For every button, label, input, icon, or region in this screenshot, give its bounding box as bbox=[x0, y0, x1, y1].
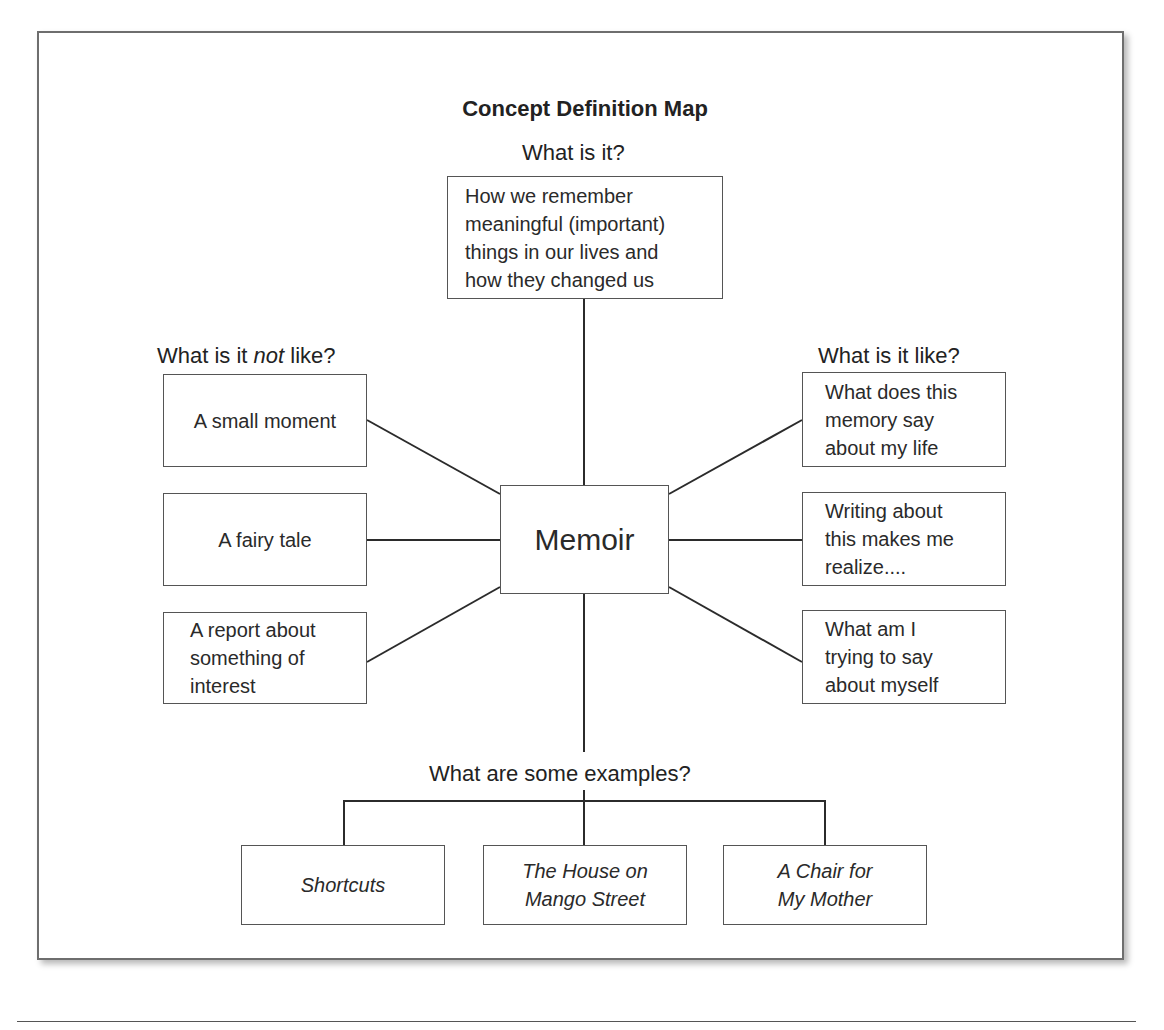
not-like-item-text: A report about something of interest bbox=[164, 616, 316, 700]
connector-left-3 bbox=[367, 587, 500, 662]
not-like-item: A small moment bbox=[163, 374, 367, 467]
connector-right-3 bbox=[669, 587, 802, 662]
is-like-item: What does this memory say about my life bbox=[802, 372, 1006, 467]
example-item-text: Shortcuts bbox=[301, 871, 385, 899]
definition-text: How we remember meaningful (important) t… bbox=[448, 182, 665, 294]
examples-heading: What are some examples? bbox=[429, 761, 691, 787]
not-like-heading-emphasis: not bbox=[254, 343, 285, 368]
not-like-item: A fairy tale bbox=[163, 493, 367, 586]
connector-right-1 bbox=[669, 420, 802, 494]
example-item: Shortcuts bbox=[241, 845, 445, 925]
example-item: The House on Mango Street bbox=[483, 845, 687, 925]
what-is-it-heading: What is it? bbox=[522, 140, 625, 166]
concept-box: Memoir bbox=[500, 485, 669, 594]
is-like-item-text: Writing about this makes me realize.... bbox=[803, 497, 954, 581]
not-like-heading: What is it not like? bbox=[157, 343, 336, 369]
not-like-item-text: A fairy tale bbox=[218, 526, 311, 554]
example-item-text: A Chair for My Mother bbox=[778, 857, 873, 913]
not-like-item-text: A small moment bbox=[194, 407, 336, 435]
is-like-item: Writing about this makes me realize.... bbox=[802, 492, 1006, 586]
connector-left-1 bbox=[367, 420, 500, 494]
is-like-item-text: What am I trying to say about myself bbox=[803, 615, 938, 699]
not-like-heading-pre: What is it bbox=[157, 343, 254, 368]
example-item-text: The House on Mango Street bbox=[522, 857, 648, 913]
not-like-heading-post: like? bbox=[284, 343, 335, 368]
example-item: A Chair for My Mother bbox=[723, 845, 927, 925]
not-like-item: A report about something of interest bbox=[163, 612, 367, 704]
is-like-item: What am I trying to say about myself bbox=[802, 610, 1006, 704]
concept-text: Memoir bbox=[534, 526, 634, 554]
is-like-heading: What is it like? bbox=[818, 343, 960, 369]
definition-box: How we remember meaningful (important) t… bbox=[447, 176, 723, 299]
page-title: Concept Definition Map bbox=[0, 96, 1164, 122]
is-like-item-text: What does this memory say about my life bbox=[803, 378, 957, 462]
